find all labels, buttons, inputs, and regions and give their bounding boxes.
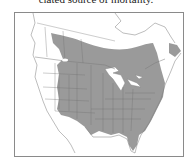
range-area (51, 33, 165, 151)
range-newfoundland (169, 43, 181, 57)
range-map (14, 12, 184, 157)
lake-patch (62, 59, 68, 62)
caption-text: ciated source of mortality. (0, 0, 192, 5)
north-america-map (15, 13, 184, 157)
